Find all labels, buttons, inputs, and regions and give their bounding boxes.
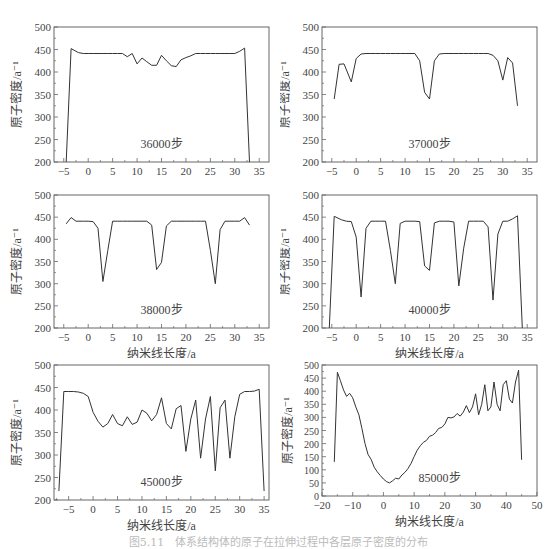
x-tick-label: 35 bbox=[259, 503, 271, 515]
x-tick-label: 0 bbox=[381, 499, 387, 511]
chart-svg: 200250300350400450500−505101520253035纳米线… bbox=[0, 355, 280, 533]
chart-36000: 200250300350400450500−505101520253035纳米线… bbox=[0, 0, 280, 184]
x-tick-label: 25 bbox=[205, 331, 217, 343]
x-tick-label: −5 bbox=[58, 165, 70, 177]
y-tick-label: 200 bbox=[35, 322, 52, 334]
y-tick-label: 350 bbox=[35, 427, 52, 439]
y-tick-label: 250 bbox=[303, 300, 320, 312]
step-label: 85000步 bbox=[419, 471, 461, 485]
x-tick-label: 10 bbox=[136, 503, 148, 515]
x-tick-label: 0 bbox=[85, 165, 91, 177]
x-tick-label: 20 bbox=[180, 331, 192, 343]
x-tick-label: 35 bbox=[522, 165, 534, 177]
density-line bbox=[334, 54, 517, 106]
y-tick-label: 200 bbox=[303, 322, 320, 334]
x-tick-label: 15 bbox=[424, 165, 436, 177]
chart-37000: 200250300350400450500−505101520253035纳米线… bbox=[280, 0, 557, 184]
y-tick-label: 300 bbox=[35, 111, 52, 123]
figure-caption: 图5.11 体系结构体的原子在拉伸过程中各层原子密度的分布 bbox=[0, 533, 557, 549]
y-axis-label: 原子密度/a⁻¹ bbox=[280, 397, 295, 464]
x-tick-label: 15 bbox=[424, 331, 436, 343]
chart-svg: 200250300350400450500−505101520253035纳米线… bbox=[0, 0, 280, 180]
y-tick-label: 450 bbox=[303, 44, 320, 56]
y-tick-label: 250 bbox=[35, 300, 52, 312]
y-tick-label: 400 bbox=[303, 233, 320, 245]
x-tick-label: −5 bbox=[326, 165, 338, 177]
x-tick-label: 10 bbox=[132, 331, 144, 343]
y-tick-label: 300 bbox=[35, 449, 52, 461]
x-tick-label: 10 bbox=[400, 331, 412, 343]
step-label: 37000步 bbox=[409, 137, 451, 151]
y-tick-label: 400 bbox=[303, 66, 320, 78]
chart-40000: 200250300350400450500−505101520253035纳米线… bbox=[280, 178, 557, 362]
x-tick-label: 30 bbox=[497, 165, 509, 177]
y-tick-label: 350 bbox=[303, 256, 320, 268]
x-tick-label: 15 bbox=[156, 165, 168, 177]
x-tick-label: 50 bbox=[532, 499, 544, 511]
x-tick-label: 30 bbox=[497, 331, 509, 343]
y-tick-label: 200 bbox=[35, 494, 52, 506]
x-tick-label: −20 bbox=[313, 499, 331, 511]
chart-85000: 050100150200250300350400450500−20−100102… bbox=[280, 355, 557, 537]
y-axis-label: 原子密度/a⁻¹ bbox=[9, 228, 24, 295]
y-tick-label: 400 bbox=[35, 66, 52, 78]
chart-svg: 200250300350400450500−505101520253035纳米线… bbox=[280, 178, 557, 358]
y-tick-label: 300 bbox=[304, 412, 319, 423]
x-tick-label: 35 bbox=[254, 331, 266, 343]
x-tick-label: 5 bbox=[378, 165, 384, 177]
x-tick-label: 40 bbox=[501, 499, 513, 511]
chart-svg: 200250300350400450500−505101520253035纳米线… bbox=[280, 0, 557, 180]
x-tick-label: 20 bbox=[448, 331, 460, 343]
x-tick-label: 30 bbox=[229, 165, 241, 177]
y-tick-label: 500 bbox=[304, 360, 319, 371]
y-tick-label: 500 bbox=[35, 359, 52, 371]
x-tick-label: 0 bbox=[353, 331, 359, 343]
x-tick-label: −5 bbox=[63, 503, 75, 515]
y-axis-label: 原子密度/a⁻¹ bbox=[280, 61, 292, 128]
y-tick-label: 400 bbox=[35, 404, 52, 416]
x-tick-label: 0 bbox=[353, 165, 359, 177]
y-tick-label: 300 bbox=[35, 278, 52, 290]
y-tick-label: 450 bbox=[35, 44, 52, 56]
x-tick-label: 15 bbox=[161, 503, 173, 515]
y-tick-label: 500 bbox=[35, 21, 52, 33]
y-tick-label: 450 bbox=[303, 211, 320, 223]
x-axis-label: 纳米线长度/a bbox=[127, 518, 196, 533]
x-tick-label: −5 bbox=[58, 331, 70, 343]
y-tick-label: 200 bbox=[304, 439, 319, 450]
x-tick-label: −10 bbox=[344, 499, 362, 511]
y-tick-label: 350 bbox=[35, 89, 52, 101]
chart-svg: 200250300350400450500−505101520253035纳米线… bbox=[0, 178, 280, 358]
x-tick-label: 0 bbox=[90, 503, 96, 515]
chart-45000: 200250300350400450500−505101520253035纳米线… bbox=[0, 355, 280, 537]
x-tick-label: 30 bbox=[470, 499, 482, 511]
y-tick-label: 250 bbox=[35, 134, 52, 146]
y-tick-label: 300 bbox=[303, 278, 320, 290]
x-tick-label: 10 bbox=[400, 165, 412, 177]
y-axis-label: 原子密度/a⁻¹ bbox=[280, 228, 292, 295]
y-tick-label: 200 bbox=[35, 156, 52, 168]
y-tick-label: 300 bbox=[303, 111, 320, 123]
y-axis-label: 原子密度/a⁻¹ bbox=[9, 399, 24, 466]
chart-svg: 050100150200250300350400450500−20−100102… bbox=[280, 355, 557, 533]
y-tick-label: 150 bbox=[304, 452, 319, 463]
y-tick-label: 250 bbox=[304, 426, 319, 437]
x-tick-label: 20 bbox=[185, 503, 197, 515]
x-tick-label: −5 bbox=[326, 331, 338, 343]
y-tick-label: 250 bbox=[35, 472, 52, 484]
step-label: 45000步 bbox=[141, 475, 183, 489]
step-label: 36000步 bbox=[141, 137, 183, 151]
y-tick-label: 400 bbox=[304, 386, 319, 397]
y-tick-label: 350 bbox=[303, 89, 320, 101]
y-tick-label: 200 bbox=[303, 156, 320, 168]
x-tick-label: 25 bbox=[473, 165, 485, 177]
y-tick-label: 450 bbox=[35, 211, 52, 223]
x-tick-label: 20 bbox=[439, 499, 451, 511]
density-line bbox=[66, 218, 249, 284]
x-tick-label: 5 bbox=[378, 331, 384, 343]
y-tick-label: 400 bbox=[35, 233, 52, 245]
chart-38000: 200250300350400450500−505101520253035纳米线… bbox=[0, 178, 280, 362]
y-tick-label: 500 bbox=[303, 21, 320, 33]
y-tick-label: 250 bbox=[303, 134, 320, 146]
y-tick-label: 100 bbox=[304, 465, 319, 476]
